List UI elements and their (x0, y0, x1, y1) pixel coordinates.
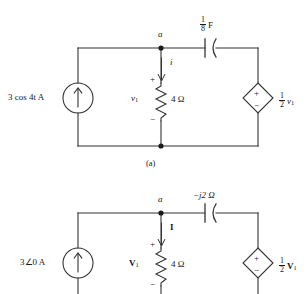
circuit-schematic-svg (0, 0, 306, 294)
node-dot-ground (158, 143, 163, 148)
resistor-value-label: 4 Ω (171, 95, 184, 104)
bottom-resistor-value-label: 4 Ω (171, 260, 184, 269)
dependent-source-plus-sign: + (254, 88, 259, 98)
bottom-node-dot-a (158, 210, 163, 215)
capacitor-fraction: 18 (200, 16, 206, 33)
bottom-resistor-minus-sign: − (150, 279, 155, 289)
resistor-minus-sign: − (150, 114, 155, 124)
bottom-dependent-source-minus-sign: − (254, 265, 259, 275)
bottom-node-a-label: a (158, 195, 163, 204)
branch-current-label: i (170, 58, 173, 67)
bottom-resistor-zigzag (156, 248, 166, 286)
resistor-voltage-subscript: 1 (135, 96, 138, 103)
bottom-dependent-source-variable-subscript: 1 (294, 264, 297, 271)
capacitor-unit: F (208, 20, 213, 30)
bottom-resistor-voltage-subscript: 1 (136, 261, 139, 268)
node-a-label: a (158, 30, 163, 39)
bottom-dependent-source-fraction: 12 (279, 257, 285, 274)
subfigure-caption-a: (a) (146, 158, 155, 168)
bottom-dependent-source-label: 12V1 (279, 257, 297, 274)
bottom-branch-current-label: I (170, 223, 174, 232)
dependent-source-label: 12v1 (279, 92, 294, 109)
dependent-source-denominator: 2 (279, 101, 285, 109)
dependent-source-minus-sign: − (254, 100, 259, 110)
bottom-dependent-source-plus-sign: + (254, 253, 259, 263)
capacitor-value-label: 18F (200, 16, 213, 33)
dependent-source-fraction: 12 (279, 92, 285, 109)
node-dot-a (158, 45, 163, 50)
bottom-resistor-voltage-label: V1 (129, 259, 139, 269)
circuit-figure: a 3 cos 4t A i 4 Ω v1 + − 18F + − 12v1 (… (0, 0, 306, 294)
bottom-current-source-label: 3∠0 A (20, 258, 45, 267)
bottom-dependent-source-denominator: 2 (279, 266, 285, 274)
resistor-plus-sign: + (150, 74, 155, 84)
bottom-capacitor-impedance-label: −j2 Ω (193, 191, 215, 200)
dependent-source-variable-subscript: 1 (291, 99, 294, 106)
resistor-voltage-label: v1 (131, 94, 138, 104)
resistor-zigzag (156, 83, 166, 121)
bottom-resistor-plus-sign: + (150, 239, 155, 249)
current-source-label: 3 cos 4t A (8, 93, 44, 102)
capacitor-denominator: 8 (200, 25, 206, 33)
